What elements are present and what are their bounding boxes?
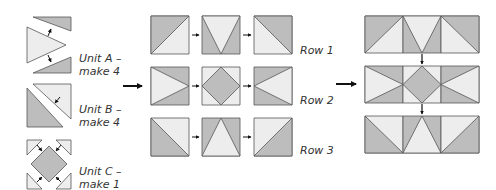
row-2-blocks bbox=[151, 67, 292, 105]
arrow-icon bbox=[37, 177, 42, 182]
unit-a-diagram bbox=[27, 17, 71, 73]
arrow-icon bbox=[37, 145, 42, 151]
unit-b-count: make 4 bbox=[79, 116, 120, 129]
row-1-label: Row 1 bbox=[300, 44, 334, 57]
row-3-label: Row 3 bbox=[300, 144, 334, 157]
unit-a-label: Unit A – bbox=[79, 52, 122, 65]
unit-c-count: make 1 bbox=[79, 178, 120, 190]
quilt-assembly-diagram: Unit A – make 4 Unit B – make 4 Unit C –… bbox=[0, 0, 496, 190]
assembled-row-2 bbox=[365, 66, 479, 103]
arrow-icon bbox=[56, 177, 61, 182]
unit-a-count: make 4 bbox=[79, 65, 120, 78]
assembled-row-3 bbox=[365, 116, 479, 153]
assembled-row-1 bbox=[365, 16, 479, 53]
arrow-icon bbox=[48, 55, 51, 62]
row-3-blocks bbox=[151, 118, 292, 156]
unit-b-label: Unit B – bbox=[79, 103, 122, 116]
row-2-label: Row 2 bbox=[300, 94, 334, 107]
arrow-icon bbox=[48, 29, 51, 36]
unit-c-label: Unit C – bbox=[79, 165, 122, 178]
unit-b-diagram bbox=[27, 84, 71, 127]
row-1-blocks bbox=[151, 16, 292, 54]
unit-c-diagram bbox=[27, 140, 71, 189]
arrow-icon bbox=[56, 145, 61, 151]
